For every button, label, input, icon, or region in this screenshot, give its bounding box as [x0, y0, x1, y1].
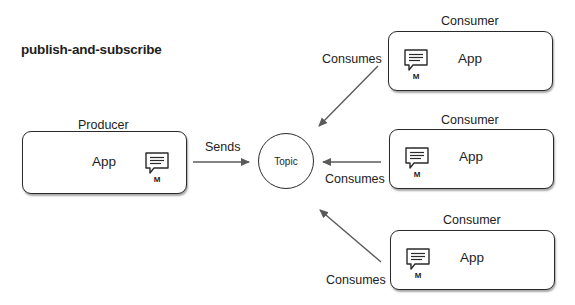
producer-label: Producer	[78, 118, 129, 132]
consumes-label-1: Consumes	[322, 52, 382, 66]
consumer-1-box[interactable]: M App	[388, 31, 553, 91]
consumes-arrow-3	[320, 210, 381, 262]
consumer-3-label: Consumer	[443, 213, 501, 227]
consumer-3-app-label: App	[460, 250, 484, 265]
message-icon	[403, 48, 429, 72]
consumer-2-label: Consumer	[441, 113, 499, 127]
message-label: M	[404, 170, 430, 179]
consumes-label-3: Consumes	[326, 273, 386, 287]
consumer-3-box[interactable]: M App	[390, 230, 555, 290]
producer-box[interactable]: App M	[22, 131, 187, 194]
consumes-arrow-1	[319, 66, 378, 126]
consumer-3-message: M	[405, 247, 431, 283]
topic-label: Topic	[274, 156, 297, 167]
topic-node[interactable]: Topic	[258, 133, 314, 189]
message-icon	[405, 247, 431, 271]
consumer-2-box[interactable]: M App	[389, 129, 554, 189]
message-label: M	[405, 271, 431, 280]
consumer-2-app-label: App	[459, 149, 483, 164]
message-icon	[404, 146, 430, 170]
message-label: M	[403, 72, 429, 81]
producer-message: M	[144, 151, 170, 187]
consumer-1-label: Consumer	[441, 14, 499, 28]
sends-label: Sends	[205, 140, 240, 154]
consumer-2-message: M	[404, 146, 430, 182]
message-icon	[144, 151, 170, 175]
consumer-1-app-label: App	[458, 51, 482, 66]
consumer-1-message: M	[403, 48, 429, 84]
consumes-label-2: Consumes	[325, 172, 385, 186]
message-label: M	[144, 175, 170, 184]
producer-app-label: App	[92, 154, 116, 169]
